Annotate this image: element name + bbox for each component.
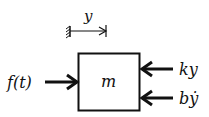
spring-force-label: ky bbox=[179, 60, 199, 79]
input-force-label: f(t) bbox=[6, 73, 32, 92]
spring-force-arrow bbox=[142, 62, 173, 76]
displacement-indicator: y bbox=[66, 7, 106, 38]
damper-force-arrow bbox=[142, 91, 173, 105]
damper-force-label: bẏ bbox=[179, 89, 199, 108]
mass-label: m bbox=[101, 72, 116, 91]
free-body-diagram: y m f(t) ky bẏ bbox=[0, 0, 209, 117]
input-force-arrow bbox=[45, 75, 77, 89]
displacement-label: y bbox=[83, 7, 93, 25]
